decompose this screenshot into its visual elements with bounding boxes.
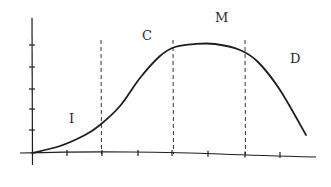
phase-label-decline: D	[290, 52, 300, 65]
phase-label-introduction: I	[69, 112, 74, 125]
phase-boundaries	[101, 40, 246, 154]
lifecycle-diagram: I C M D	[0, 0, 331, 187]
axes	[20, 18, 316, 165]
lifecycle-curve	[32, 43, 306, 153]
diagram-graphic	[0, 0, 331, 187]
phase-label-maturity: M	[215, 11, 228, 24]
phase-label-growth: C	[142, 29, 152, 42]
